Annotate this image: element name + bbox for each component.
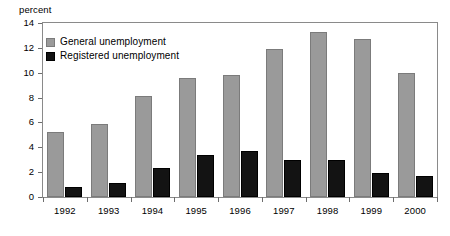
- y-axis-tick-mark: [38, 73, 42, 74]
- bar-group: [306, 23, 350, 197]
- bar-general-1993: [91, 124, 108, 197]
- bar-group: [174, 23, 218, 197]
- y-axis-tick-label: 14: [23, 17, 34, 28]
- legend-item-registered[interactable]: Registered unemployment: [46, 50, 179, 62]
- bar-general-1998: [310, 32, 327, 197]
- x-axis-tick-mark: [349, 197, 350, 202]
- bar-group: [393, 23, 437, 197]
- bar-general-1994: [135, 96, 152, 197]
- bar-group: [262, 23, 306, 197]
- unemployment-bar-chart: percent 02468101214 19921993199419951996…: [0, 0, 450, 236]
- bar-group: [349, 23, 393, 197]
- legend-swatch-registered-icon: [46, 52, 55, 61]
- y-axis-tick-label: 0: [29, 191, 34, 202]
- x-axis-tick-mark: [43, 197, 44, 202]
- bar-registered-1993: [109, 183, 126, 197]
- y-axis-tick-mark: [38, 197, 42, 198]
- bar-general-1999: [354, 39, 371, 197]
- x-axis-label-1998: 1998: [306, 205, 350, 221]
- y-axis-tick-mark: [38, 172, 42, 173]
- bar-general-2000: [398, 73, 415, 197]
- legend-item-general[interactable]: General unemployment: [46, 36, 179, 48]
- x-axis-label-1992: 1992: [43, 205, 87, 221]
- legend-swatch-general-icon: [46, 38, 55, 47]
- bar-registered-1997: [284, 160, 301, 197]
- x-axis-tick-mark: [437, 197, 438, 202]
- bar-registered-1996: [241, 151, 258, 197]
- bar-registered-1998: [328, 160, 345, 197]
- bar-general-1992: [47, 132, 64, 197]
- y-axis-tick-label: 4: [29, 141, 34, 152]
- bar-registered-1994: [153, 168, 170, 197]
- y-axis-tick-label: 8: [29, 92, 34, 103]
- y-axis-tick-label: 10: [23, 67, 34, 78]
- x-axis-label-1993: 1993: [87, 205, 131, 221]
- x-axis-label-1994: 1994: [131, 205, 175, 221]
- x-axis-label-1995: 1995: [174, 205, 218, 221]
- bar-registered-2000: [416, 176, 433, 197]
- x-axis-tick-mark: [218, 197, 219, 202]
- y-axis-tick-layer: 02468101214: [0, 22, 42, 198]
- y-axis-tick-mark: [38, 147, 42, 148]
- bar-general-1995: [179, 78, 196, 197]
- legend-label: General unemployment: [60, 36, 166, 48]
- y-axis-tick-label: 12: [23, 42, 34, 53]
- bar-general-1996: [223, 75, 240, 197]
- x-axis-tick-mark: [393, 197, 394, 202]
- x-axis-tick-mark: [131, 197, 132, 202]
- legend-label: Registered unemployment: [60, 50, 179, 62]
- y-axis-tick-mark: [38, 48, 42, 49]
- x-axis-label-2000: 2000: [393, 205, 437, 221]
- chart-legend: General unemploymentRegistered unemploym…: [46, 36, 179, 62]
- y-axis-tick-label: 2: [29, 166, 34, 177]
- bar-registered-1999: [372, 173, 389, 197]
- y-axis-tick-label: 6: [29, 116, 34, 127]
- x-axis-label-1996: 1996: [218, 205, 262, 221]
- x-axis-tick-mark: [174, 197, 175, 202]
- x-axis-tick-layer: [43, 197, 437, 203]
- bar-registered-1995: [197, 155, 214, 197]
- bar-group: [218, 23, 262, 197]
- x-axis-label-1997: 1997: [262, 205, 306, 221]
- y-axis-tick-mark: [38, 98, 42, 99]
- x-axis-label-1999: 1999: [349, 205, 393, 221]
- bar-general-1997: [266, 49, 283, 197]
- x-axis-label-layer: 199219931994199519961997199819992000: [43, 205, 437, 221]
- y-axis-caption: percent: [19, 4, 51, 15]
- y-axis-tick-mark: [38, 23, 42, 24]
- x-axis-tick-mark: [306, 197, 307, 202]
- x-axis-tick-mark: [87, 197, 88, 202]
- y-axis-tick-mark: [38, 122, 42, 123]
- bar-registered-1992: [65, 187, 82, 197]
- x-axis-tick-mark: [262, 197, 263, 202]
